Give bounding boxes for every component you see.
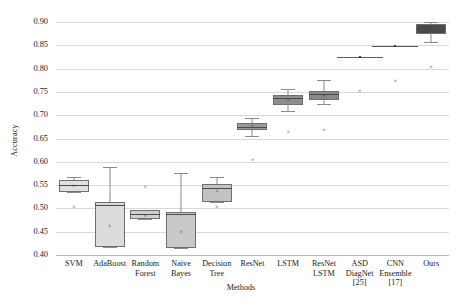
y-axis-tick-label: 0.90	[14, 17, 48, 26]
mean-marker: ×	[286, 97, 290, 104]
mean-marker: ×	[108, 223, 112, 230]
mean-marker	[359, 56, 361, 58]
plot-area: ××××××××××××××××××	[56, 22, 449, 255]
whisker-cap-lower	[103, 247, 117, 248]
whisker-cap-lower	[424, 42, 438, 43]
outlier-marker: ×	[72, 204, 76, 211]
box-plot-adaboost[interactable]: ×	[92, 22, 128, 255]
mean-marker: ×	[143, 213, 147, 220]
whisker-upper	[181, 173, 182, 212]
box-plot-ours[interactable]: ××	[413, 22, 449, 255]
y-axis-tick-label: 0.40	[14, 250, 48, 259]
whisker-upper	[109, 167, 110, 202]
x-axis-label-line: Ensemble	[372, 269, 420, 279]
box-plot-random-forest[interactable]: ××	[127, 22, 163, 255]
outlier-marker: ×	[322, 127, 326, 134]
whisker-lower	[431, 34, 432, 42]
outlier-marker: ×	[358, 88, 362, 95]
outlier-marker: ×	[286, 129, 290, 136]
chart-root: Accuracy 0.900.850.800.750.700.650.600.5…	[0, 0, 457, 305]
outlier-marker: ×	[251, 157, 255, 164]
x-axis-label-line: Tree	[193, 269, 241, 279]
mean-marker: ×	[429, 26, 433, 33]
outlier-marker: ×	[429, 64, 433, 71]
whisker-cap-upper	[174, 173, 188, 174]
whisker-cap-upper	[67, 177, 81, 178]
whisker-cap-lower	[245, 136, 259, 137]
box-plot-lstm[interactable]: ××	[270, 22, 306, 255]
box-plot-resnet[interactable]: ××	[235, 22, 271, 255]
whisker-cap-upper	[317, 80, 331, 81]
whisker-cap-upper	[245, 118, 259, 119]
box-plot-asd-diagnet-25[interactable]: ×	[342, 22, 378, 255]
y-axis-tick-label: 0.60	[14, 157, 48, 166]
outlier-marker: ×	[143, 184, 147, 191]
whisker-cap-lower	[317, 104, 331, 105]
x-axis-line	[56, 255, 449, 256]
box-plot-naive-bayes[interactable]: ×	[163, 22, 199, 255]
mean-marker: ×	[322, 92, 326, 99]
y-axis-tick-label: 0.45	[14, 227, 48, 236]
outlier-marker: ×	[215, 204, 219, 211]
whisker-upper	[216, 177, 217, 184]
whisker-cap-lower	[138, 219, 152, 220]
whisker-cap-upper	[210, 177, 224, 178]
whisker-cap-upper	[103, 167, 117, 168]
mean-marker: ×	[215, 187, 219, 194]
mean-marker: ×	[72, 183, 76, 190]
whisker-upper	[323, 80, 324, 91]
y-axis-tick-label: 0.70	[14, 110, 48, 119]
y-axis-tick-label: 0.50	[14, 203, 48, 212]
y-axis-tick-label: 0.75	[14, 87, 48, 96]
whisker-cap-lower	[67, 192, 81, 193]
median-line	[95, 205, 125, 206]
x-axis-tick-label: Ours	[407, 259, 455, 269]
y-axis-tick-label: 0.80	[14, 64, 48, 73]
whisker-cap-upper	[424, 22, 438, 23]
x-axis-title: Methods	[227, 283, 287, 292]
mean-marker: ×	[251, 123, 255, 130]
whisker-cap-upper	[281, 89, 295, 90]
box-plot-decision-tree[interactable]: ××	[199, 22, 235, 255]
box-plot-cnn-ensemble-17[interactable]: ×	[378, 22, 414, 255]
mean-marker: ×	[179, 228, 183, 235]
x-axis-label-line: Ours	[407, 259, 455, 269]
y-axis-tick-label: 0.55	[14, 180, 48, 189]
whisker-cap-lower	[174, 248, 188, 249]
x-axis-labels: SVMAdaBoostRandomForestNaiveBayesDecisio…	[56, 259, 449, 305]
whisker-cap-lower	[281, 111, 295, 112]
box-plot-svm[interactable]: ××	[56, 22, 92, 255]
mean-marker	[394, 45, 396, 47]
median-line	[166, 214, 196, 215]
x-axis-label-line: [17]	[372, 278, 420, 288]
y-axis-tick-label: 0.65	[14, 134, 48, 143]
outlier-marker: ×	[394, 78, 398, 85]
y-axis-tick-label: 0.85	[14, 40, 48, 49]
